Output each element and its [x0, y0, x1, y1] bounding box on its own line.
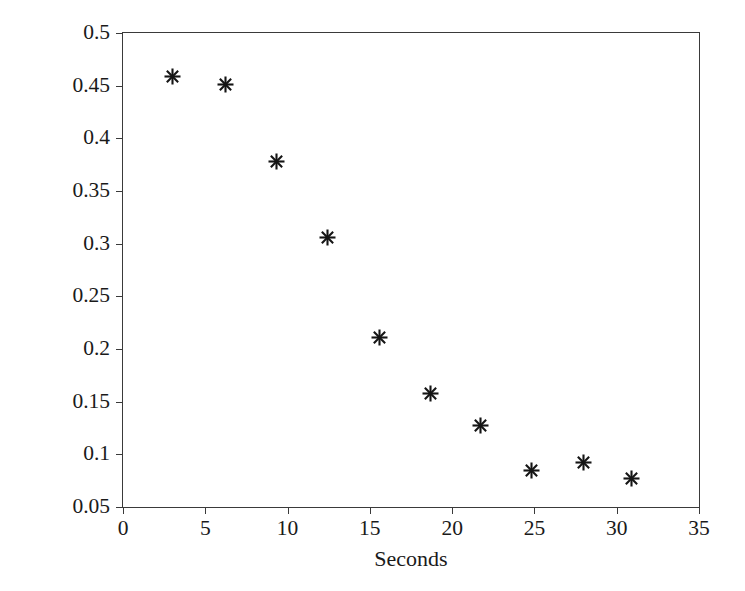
y-axis-tick-label: 0.15 — [72, 391, 110, 413]
y-axis-tick-label: 0.25 — [72, 286, 110, 308]
data-point-marker — [575, 454, 592, 471]
x-axis-tick — [123, 507, 124, 514]
data-point-marker — [371, 329, 388, 346]
y-axis-tick-label: 0.2 — [83, 338, 110, 360]
y-axis-tick — [116, 191, 123, 192]
data-point-marker — [319, 229, 336, 246]
y-axis-tick-label: 0.5 — [83, 22, 110, 44]
data-point-marker — [217, 76, 234, 93]
chart-figure: 0.050.10.150.20.250.30.350.40.450.505101… — [0, 0, 745, 591]
x-axis-tick — [617, 507, 618, 514]
x-axis-tick — [288, 507, 289, 514]
y-axis-tick — [116, 402, 123, 403]
data-point-marker — [164, 68, 181, 85]
x-axis-tick-label: 0 — [118, 518, 129, 540]
y-axis-tick — [116, 33, 123, 34]
x-axis-tick-label: 15 — [359, 518, 381, 540]
data-point-marker — [623, 470, 640, 487]
data-point-marker — [268, 153, 285, 170]
y-axis-tick-label: 0.35 — [72, 180, 110, 202]
x-axis-tick-label: 30 — [606, 518, 628, 540]
y-axis-tick — [116, 244, 123, 245]
y-axis-tick-label: 0.05 — [72, 496, 110, 518]
x-axis-tick — [205, 507, 206, 514]
data-point-marker — [523, 462, 540, 479]
y-axis-tick-label: 0.3 — [83, 233, 110, 255]
plot-area — [123, 33, 699, 507]
x-axis-tick — [370, 507, 371, 514]
y-axis-tick — [116, 86, 123, 87]
x-axis-tick-label: 5 — [200, 518, 211, 540]
y-axis-tick — [116, 138, 123, 139]
x-axis-tick — [452, 507, 453, 514]
data-point-marker — [472, 417, 489, 434]
y-axis-tick — [116, 349, 123, 350]
x-axis-tick-label: 20 — [441, 518, 463, 540]
x-axis-tick — [699, 507, 700, 514]
x-axis-tick-label: 25 — [524, 518, 546, 540]
y-axis-tick-label: 0.45 — [72, 75, 110, 97]
y-axis-tick — [116, 454, 123, 455]
y-axis-tick-label: 0.1 — [83, 444, 110, 466]
data-point-marker — [422, 385, 439, 402]
y-axis-tick-label: 0.4 — [83, 128, 110, 150]
y-axis-tick — [116, 296, 123, 297]
x-axis-tick-label: 10 — [277, 518, 299, 540]
x-axis-tick — [534, 507, 535, 514]
x-axis-title: Seconds — [122, 548, 700, 570]
x-axis-tick-label: 35 — [688, 518, 710, 540]
plot-frame: 0.050.10.150.20.250.30.350.40.450.505101… — [122, 32, 700, 508]
y-axis-tick — [116, 507, 123, 508]
